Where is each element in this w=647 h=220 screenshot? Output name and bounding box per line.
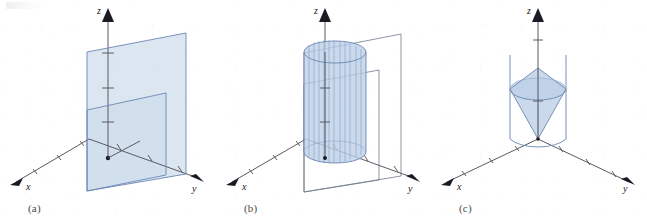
origin-marker-b <box>323 156 327 160</box>
panel-c-drawing: x y z <box>431 0 647 220</box>
x-axis-label-c: x <box>456 181 462 192</box>
panel-a-caption: (a) <box>28 202 41 214</box>
z-axis-arrowhead-b <box>319 8 331 22</box>
y-axis-label-b: y <box>407 183 413 194</box>
x-axis-label-a: x <box>25 181 31 192</box>
x-axis-line-b <box>232 139 306 182</box>
z-axis-label-b: z <box>313 5 318 16</box>
y-axis-label-a: y <box>191 183 197 194</box>
x-axis-line-a <box>16 139 89 182</box>
panel-b-caption: (b) <box>244 202 257 214</box>
panel-a-intersecting-planes: x y z (a) <box>0 0 216 220</box>
origin-marker-c <box>536 137 540 141</box>
x-axis-arrowhead-b <box>226 178 239 186</box>
panel-a-drawing: x y z <box>0 0 216 220</box>
z-axis-label-c: z <box>526 5 531 16</box>
panel-b-cylinder: x y z <box>216 0 432 220</box>
cylinder-body-fill <box>304 41 366 163</box>
y-axis-arrowhead-a <box>190 174 204 182</box>
x-axis-arrowhead-c <box>441 178 454 186</box>
x-axis-tick-3-b <box>296 141 300 146</box>
figure-container: x y z (a) <box>0 0 647 220</box>
panel-c-double-cone: x y z <box>431 0 647 220</box>
panel-c-caption: (c) <box>459 202 472 214</box>
panel-b-drawing: x y z <box>216 0 432 220</box>
z-axis-label-a: z <box>96 5 101 16</box>
z-axis-arrowhead-c <box>532 8 544 22</box>
y-axis-label-c: y <box>622 183 628 194</box>
x-axis-arrowhead-a <box>10 178 23 186</box>
z-axis-arrowhead-a <box>102 8 114 22</box>
y-axis-arrowhead-b <box>406 174 420 182</box>
front-plane-fill <box>87 33 186 191</box>
x-axis-label-b: x <box>241 181 247 192</box>
